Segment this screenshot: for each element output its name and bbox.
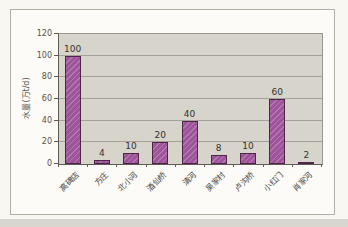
x-tick-mark: [175, 164, 176, 167]
bar-value-label: 100: [58, 44, 88, 54]
page: 水量(万t/d) 020406080100120100高碑店4方庄10北小河20…: [0, 0, 348, 227]
bar-value-label: 40: [175, 109, 205, 119]
gridline: [59, 55, 322, 56]
y-tick-mark: [54, 141, 58, 142]
bar: [211, 155, 227, 164]
bar-value-label: 2: [291, 150, 321, 160]
bar: [269, 99, 285, 164]
y-tick-mark: [54, 76, 58, 77]
x-tick-mark: [58, 164, 59, 167]
bar: [182, 121, 198, 164]
bar-value-label: 20: [145, 130, 175, 140]
chart-container: 水量(万t/d) 020406080100120100高碑店4方庄10北小河20…: [10, 9, 335, 215]
y-tick-label: 0: [30, 159, 52, 168]
x-tick-mark: [116, 164, 117, 167]
page-bottom-shadow: [0, 219, 348, 227]
bar-value-label: 10: [116, 141, 146, 151]
bar: [298, 162, 314, 164]
y-tick-mark: [54, 33, 58, 34]
bar: [123, 153, 139, 164]
y-axis-title: 水量(万t/d): [20, 77, 31, 118]
bar: [152, 142, 168, 164]
y-tick-label: 40: [30, 116, 52, 125]
x-tick-mark: [321, 164, 322, 167]
bar: [240, 153, 256, 164]
y-tick-label: 100: [30, 51, 52, 60]
bar: [94, 160, 110, 164]
x-tick-mark: [292, 164, 293, 167]
bar-value-label: 4: [87, 148, 117, 158]
x-tick-mark: [87, 164, 88, 167]
y-tick-mark: [54, 55, 58, 56]
bar-value-label: 8: [204, 143, 234, 153]
y-tick-label: 20: [30, 137, 52, 146]
bar-value-label: 10: [233, 141, 263, 151]
x-tick-mark: [146, 164, 147, 167]
x-tick-mark: [204, 164, 205, 167]
y-tick-mark: [54, 98, 58, 99]
bar: [65, 56, 81, 164]
x-tick-label: 吴家村: [174, 170, 227, 223]
y-tick-label: 80: [30, 72, 52, 81]
y-tick-label: 120: [30, 29, 52, 38]
x-tick-mark: [263, 164, 264, 167]
gridline: [59, 76, 322, 77]
y-tick-mark: [54, 120, 58, 121]
y-tick-label: 60: [30, 94, 52, 103]
bar-value-label: 60: [262, 87, 292, 97]
x-tick-label: 高碑店: [28, 170, 81, 223]
x-tick-mark: [233, 164, 234, 167]
